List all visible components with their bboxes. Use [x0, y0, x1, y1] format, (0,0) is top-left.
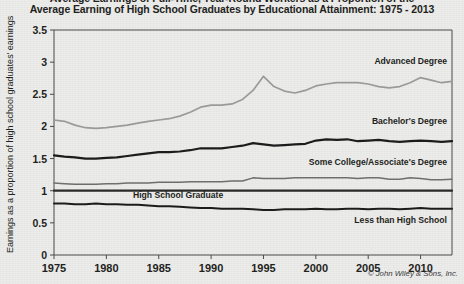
y-axis-label-group: Earnings as a proportion of high school … — [5, 15, 15, 253]
y-tick-label: 3.5 — [32, 24, 47, 36]
x-tick-label: 1975 — [42, 262, 66, 274]
series-label-some-college: Some College/Associate's Degree — [309, 157, 447, 167]
series-line — [54, 139, 452, 158]
line-chart-svg: Earnings as a proportion of high school … — [0, 0, 464, 284]
plot-area-wrapper: Earnings as a proportion of high school … — [0, 0, 464, 284]
y-tick-label: 2 — [41, 120, 47, 132]
y-tick-label: 2.5 — [32, 88, 47, 100]
copyright-credit: © John Wiley & Sons, Inc. — [368, 269, 458, 278]
y-tick-label: 1.5 — [32, 153, 47, 165]
series-line — [54, 178, 452, 184]
data-series-lines — [54, 76, 452, 210]
x-tick-label: 1995 — [251, 262, 275, 274]
series-label-bachelors: Bachelor's Degree — [372, 116, 447, 126]
series-label-advanced: Advanced Degree — [374, 56, 447, 66]
x-tick-label: 2000 — [304, 262, 328, 274]
y-tick-label: 1 — [41, 185, 47, 197]
y-axis-label: Earnings as a proportion of high school … — [5, 15, 15, 253]
y-tick-label: 3 — [41, 56, 47, 68]
x-tick-label: 1985 — [146, 262, 170, 274]
y-tick-label: 0.5 — [32, 217, 47, 229]
chart-figure: Average Earnings of Full-Time, Year-Roun… — [0, 0, 464, 284]
y-tick-label: 0 — [41, 249, 47, 261]
x-tick-label: 1990 — [199, 262, 223, 274]
series-inline-labels: Advanced DegreeBachelor's DegreeSome Col… — [133, 56, 447, 225]
series-label-hs-graduate: High School Graduate — [133, 190, 223, 200]
series-line — [54, 204, 452, 210]
x-tick-label: 1980 — [94, 262, 118, 274]
series-label-less-than-hs: Less than High School — [354, 215, 447, 225]
y-axis-tick-labels: 00.511.522.533.5 — [32, 24, 47, 261]
